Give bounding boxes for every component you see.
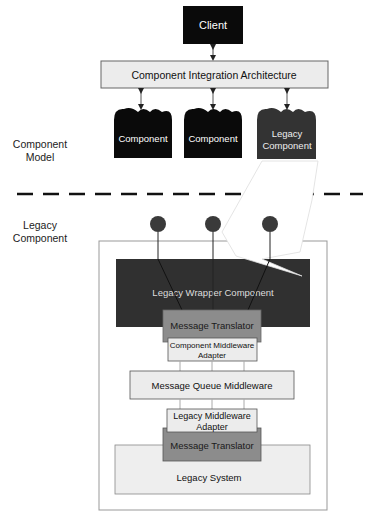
legacy-component-side-label-line2: Component — [13, 232, 67, 244]
cia-node: Component Integration Architecture — [101, 61, 328, 88]
translator-bottom-label: Message Translator — [170, 440, 253, 451]
cma-label-line1: Component Middleware — [170, 341, 255, 350]
mqm-label: Message Queue Middleware — [152, 380, 273, 391]
legacy-component-node: Legacy Component — [257, 108, 316, 159]
component-model-label-line1: Component — [13, 138, 67, 150]
message-translator-top: Message Translator — [163, 310, 261, 342]
cma-label-line2: Adapter — [198, 351, 226, 360]
interface-3-icon — [262, 216, 278, 232]
interface-1-icon — [150, 216, 166, 232]
translator-top-label: Message Translator — [170, 320, 253, 331]
message-translator-bottom: Message Translator — [163, 428, 261, 461]
architecture-diagram: Client Component Integration Architectur… — [0, 0, 373, 531]
lma-label-line1: Legacy Middleware — [173, 411, 251, 421]
interface-2-icon — [205, 216, 221, 232]
legacy-component-label-line1: Legacy — [272, 128, 303, 139]
component-middleware-adapter: Component Middleware Adapter — [168, 338, 257, 361]
legacy-middleware-adapter: Legacy Middleware Adapter — [167, 409, 257, 432]
component-node-2: Component — [184, 108, 242, 158]
legacy-component-label-line2: Component — [262, 140, 311, 151]
component-2-label: Component — [188, 133, 237, 144]
client-node: Client — [183, 6, 243, 44]
legacy-system-label: Legacy System — [177, 472, 242, 483]
cia-label: Component Integration Architecture — [131, 69, 296, 81]
component-node-1: Component — [114, 108, 172, 158]
client-label: Client — [199, 19, 227, 31]
legacy-component-side-label-line1: Legacy — [23, 219, 58, 231]
lma-label-line2: Adapter — [196, 422, 228, 432]
message-queue-middleware: Message Queue Middleware — [130, 371, 294, 399]
component-1-label: Component — [118, 133, 167, 144]
component-model-label-line2: Model — [26, 151, 55, 163]
